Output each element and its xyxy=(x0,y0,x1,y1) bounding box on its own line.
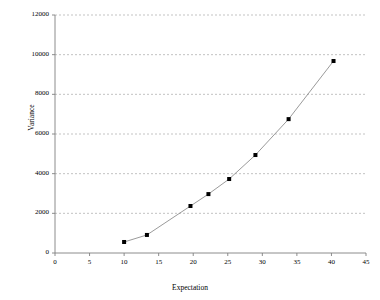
x-axis-tick-label: 45 xyxy=(351,259,380,266)
x-axis-tick-label: 5 xyxy=(75,259,105,266)
y-axis-tick-label: 12000 xyxy=(0,11,49,18)
data-point-marker xyxy=(227,177,231,181)
data-point-marker xyxy=(206,192,210,196)
x-axis-tick-label: 40 xyxy=(316,259,346,266)
x-axis-tick-label: 30 xyxy=(247,259,277,266)
y-axis-tick-label: 10000 xyxy=(0,51,49,58)
y-axis-tick-label: 4000 xyxy=(0,170,49,177)
series-line xyxy=(124,61,333,242)
x-axis-tick-label: 15 xyxy=(144,259,174,266)
data-point-marker xyxy=(287,117,291,121)
data-point-marker xyxy=(332,59,336,63)
x-axis-tick-label: 10 xyxy=(109,259,139,266)
x-axis-tick-label: 35 xyxy=(282,259,312,266)
x-axis-tick-label: 20 xyxy=(178,259,208,266)
data-point-marker xyxy=(188,204,192,208)
x-axis-title: Expectation xyxy=(0,283,380,292)
y-axis-tick-label: 0 xyxy=(0,249,49,256)
data-point-marker xyxy=(122,240,126,244)
x-axis-tick-label: 25 xyxy=(213,259,243,266)
data-point-marker xyxy=(145,233,149,237)
y-axis-tick-label: 2000 xyxy=(0,209,49,216)
y-axis-tick-label: 6000 xyxy=(0,130,49,137)
plot-area xyxy=(0,0,380,300)
y-axis-tick-label: 8000 xyxy=(0,90,49,97)
data-point-marker xyxy=(253,153,257,157)
x-axis-tick-label: 0 xyxy=(40,259,70,266)
chart-container: Variance Expectation 0200040006000800010… xyxy=(0,0,380,300)
